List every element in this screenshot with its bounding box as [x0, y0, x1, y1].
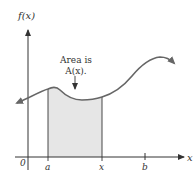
origin-label: 0	[20, 158, 26, 168]
tick-label-b: b	[142, 162, 148, 172]
tick-label-a: a	[45, 162, 50, 172]
annotation-line-1: Area is	[59, 55, 92, 65]
y-axis-label: f(x)	[17, 10, 35, 21]
annotation-line-2: A(x).	[64, 66, 87, 76]
shaded-area-region	[48, 87, 102, 157]
tick-label-x: x	[99, 162, 104, 172]
area-function-diagram: f(x) x 0 a x b Area is A(x).	[0, 0, 196, 185]
x-axis-label: x	[187, 152, 193, 163]
